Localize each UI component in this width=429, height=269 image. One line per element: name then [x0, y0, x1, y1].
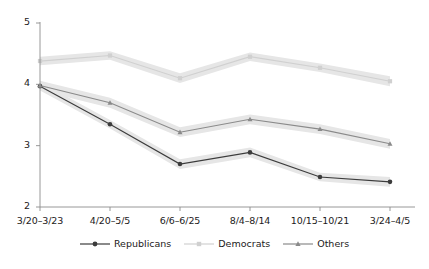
legend-item-democrats[interactable]: Democrats: [184, 238, 270, 249]
legend-label: Democrats: [218, 238, 270, 249]
plot-area: [0, 0, 429, 269]
legend-item-others[interactable]: Others: [283, 238, 349, 249]
legend-swatch-circle-icon: [80, 239, 110, 249]
x-tick-label-2: 6/6–6/25: [160, 215, 201, 226]
legend-swatch-square-icon: [184, 239, 214, 249]
data-point-democrats-4: [318, 66, 322, 70]
data-point-democrats-2: [178, 76, 182, 80]
data-point-democrats-5: [388, 79, 392, 83]
data-point-democrats-1: [108, 53, 112, 57]
y-tick-label-5: 5: [8, 16, 30, 27]
x-tick-label-1: 4/20–5/5: [90, 215, 131, 226]
data-point-democrats-3: [248, 55, 252, 59]
x-tick-label-4: 10/15–10/21: [291, 215, 349, 226]
legend-item-republicans[interactable]: Republicans: [80, 238, 171, 249]
x-tick-label-3: 8/4–8/14: [230, 215, 271, 226]
y-tick-label-3: 3: [8, 139, 30, 150]
line-chart: 2345 3/20–3/234/20–5/56/6–6/258/4–8/1410…: [0, 0, 429, 269]
data-point-republicans-2: [178, 162, 183, 167]
y-tick-label-2: 2: [8, 200, 30, 211]
legend-swatch-triangle-icon: [283, 239, 313, 249]
y-tick-label-4: 4: [8, 77, 30, 88]
data-point-republicans-4: [318, 175, 323, 180]
data-point-republicans-3: [248, 150, 253, 155]
legend-label: Republicans: [114, 238, 171, 249]
data-point-republicans-1: [108, 122, 113, 127]
chart-legend: RepublicansDemocratsOthers: [0, 238, 429, 249]
data-point-republicans-5: [388, 180, 393, 185]
legend-label: Others: [317, 238, 349, 249]
x-tick-label-5: 3/24–4/5: [370, 215, 411, 226]
x-tick-label-0: 3/20–3/23: [17, 215, 64, 226]
